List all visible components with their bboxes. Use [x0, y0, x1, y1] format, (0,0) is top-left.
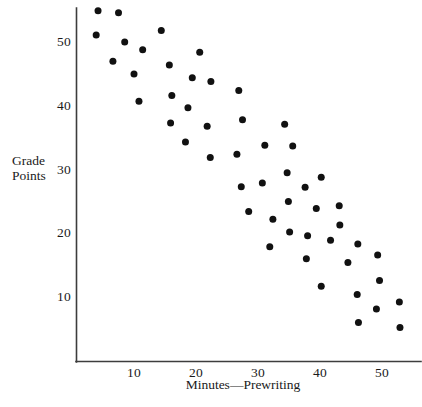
- data-point: [354, 241, 361, 248]
- data-point: [266, 243, 273, 250]
- data-point: [336, 202, 343, 209]
- data-point: [327, 237, 334, 244]
- x-tick-label: 40: [313, 365, 327, 381]
- data-point: [235, 87, 242, 94]
- y-axis-title-line-1: Grade: [12, 153, 46, 168]
- data-point: [289, 142, 296, 149]
- data-point: [196, 49, 203, 56]
- data-point: [109, 58, 116, 65]
- y-tick-label: 10: [57, 289, 71, 305]
- data-point: [233, 151, 240, 158]
- data-point: [207, 78, 214, 85]
- data-point: [303, 255, 310, 262]
- data-point: [318, 283, 325, 290]
- y-tick-label: 20: [57, 225, 71, 241]
- y-axis-title: Grade Points: [12, 153, 46, 183]
- y-tick-label: 40: [57, 98, 71, 114]
- data-point: [204, 123, 211, 130]
- data-point: [245, 208, 252, 215]
- data-point: [285, 198, 292, 205]
- data-point: [182, 139, 189, 146]
- axes-group: [76, 8, 421, 362]
- data-point: [238, 183, 245, 190]
- data-points-group: [93, 7, 404, 331]
- data-point: [302, 184, 309, 191]
- data-point: [139, 46, 146, 53]
- data-point: [261, 142, 268, 149]
- data-point: [95, 7, 102, 14]
- data-point: [93, 31, 100, 38]
- data-point: [167, 119, 174, 126]
- x-tick-label: 10: [127, 365, 141, 381]
- data-point: [336, 221, 343, 228]
- data-point: [344, 259, 351, 266]
- y-axis-title-line-2: Points: [12, 168, 46, 183]
- plot-canvas: [0, 0, 422, 407]
- data-point: [121, 39, 128, 46]
- data-point: [166, 61, 173, 68]
- data-point: [374, 251, 381, 258]
- data-point: [207, 154, 214, 161]
- scatter-plot-figure: 1020304050 1020304050 Grade Points Minut…: [0, 0, 422, 407]
- data-point: [355, 319, 362, 326]
- data-point: [158, 27, 165, 34]
- data-point: [318, 174, 325, 181]
- data-point: [115, 9, 122, 16]
- data-point: [135, 98, 142, 105]
- data-point: [184, 104, 191, 111]
- data-point: [313, 205, 320, 212]
- data-point: [286, 228, 293, 235]
- data-point: [373, 306, 380, 313]
- data-point: [189, 74, 196, 81]
- data-point: [354, 291, 361, 298]
- data-point: [376, 277, 383, 284]
- x-axis-title: Minutes—Prewriting: [186, 377, 301, 393]
- data-point: [284, 169, 291, 176]
- data-point: [239, 116, 246, 123]
- data-point: [396, 324, 403, 331]
- data-point: [281, 121, 288, 128]
- data-point: [259, 179, 266, 186]
- data-point: [269, 216, 276, 223]
- data-point: [168, 92, 175, 99]
- x-tick-label: 50: [375, 365, 389, 381]
- data-point: [396, 299, 403, 306]
- y-tick-label: 50: [57, 34, 71, 50]
- data-point: [131, 70, 138, 77]
- data-point: [304, 232, 311, 239]
- y-tick-label: 30: [57, 162, 71, 178]
